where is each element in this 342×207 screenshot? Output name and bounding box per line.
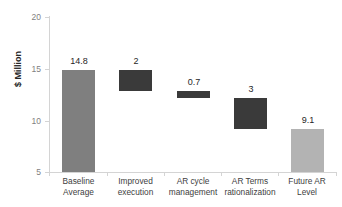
x-axis-label-improved-execution: Improved execution [110,176,161,197]
x-axis-label-future-ar-level: Future AR Level [281,176,333,197]
y-tick-label-10: 10 [9,116,41,126]
x-axis-label-baseline-average: Baseline Average [54,176,103,197]
bar-value-improved-execution: 2 [113,56,159,66]
bar-value-future-ar-level: 9.1 [285,115,331,125]
x-tick-4 [278,172,279,176]
bar-value-ar-terms-rationalization: 3 [228,84,274,94]
y-tick-20 [45,17,50,18]
bar-baseline-average[interactable] [62,70,95,172]
bar-future-ar-level[interactable] [291,129,324,172]
x-axis-label-ar-cycle-management: AR cycle management [166,176,220,197]
waterfall-chart: $ Million 20 15 10 5 14.8 2 0.7 3 9.1 Ba… [0,0,342,207]
bar-value-baseline-average: 14.8 [56,56,102,66]
bar-ar-cycle-management[interactable] [177,91,210,98]
bar-value-ar-cycle-management: 0.7 [171,77,217,87]
y-tick-15 [45,69,50,70]
y-tick-10 [45,121,50,122]
x-axis-line [49,172,337,173]
y-axis-line [49,16,50,173]
x-tick-0 [49,172,50,176]
y-tick-label-15: 15 [9,64,41,74]
y-tick-label-20: 20 [9,12,41,22]
x-tick-2 [164,172,165,176]
y-tick-label-5: 5 [9,167,41,177]
x-tick-1 [107,172,108,176]
bar-ar-terms-rationalization[interactable] [234,98,267,129]
x-tick-5 [336,172,337,176]
x-axis-label-ar-terms-rationalization: AR Terms rationalization [222,176,278,197]
bar-improved-execution[interactable] [119,70,152,91]
